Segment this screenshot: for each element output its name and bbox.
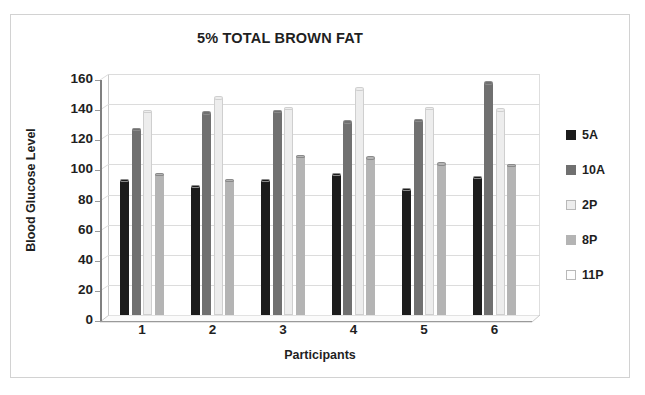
bar-top-cap [507, 164, 516, 168]
bar-10A-participant-2[interactable] [202, 113, 211, 315]
bar-8P-participant-4[interactable] [366, 158, 375, 315]
x-axis-label-4: 4 [334, 322, 374, 337]
bar-group-participant-4 [332, 80, 396, 321]
bar-10A-participant-1[interactable] [132, 130, 141, 315]
bar-top-cap [261, 179, 270, 183]
bar-top-cap [132, 128, 141, 132]
bar-face [296, 157, 305, 315]
bar-top-cap [296, 155, 305, 159]
bar-8P-participant-6[interactable] [507, 166, 516, 315]
y-axis-label-140: 140 [55, 101, 93, 116]
bar-face [496, 110, 505, 315]
bar-face [366, 158, 375, 315]
bar-face [343, 122, 352, 315]
x-axis-label-1: 1 [122, 322, 162, 337]
bar-8P-participant-1[interactable] [155, 175, 164, 315]
bar-face [414, 121, 423, 315]
bar-face [402, 190, 411, 315]
legend-swatch-icon [566, 235, 576, 245]
x-axis-label-5: 5 [404, 322, 444, 337]
bar-2P-participant-1[interactable] [143, 112, 152, 315]
bar-top-cap [366, 156, 375, 160]
bar-top-cap [343, 120, 352, 124]
bar-5A-participant-2[interactable] [191, 187, 200, 315]
legend-item-2P[interactable]: 2P [566, 198, 636, 212]
bar-10A-participant-5[interactable] [414, 121, 423, 315]
bar-face [473, 178, 482, 315]
bar-face [284, 109, 293, 315]
bar-face [425, 109, 434, 315]
bar-top-cap [425, 107, 434, 111]
bar-8P-participant-2[interactable] [225, 181, 234, 315]
bar-face [273, 112, 282, 315]
chart-legend: 5A10A2P8P11P [566, 128, 636, 303]
bar-5A-participant-5[interactable] [402, 190, 411, 315]
y-axis-label-60: 60 [55, 222, 93, 237]
bar-5A-participant-4[interactable] [332, 175, 341, 315]
legend-label: 8P [582, 233, 597, 247]
bar-2P-participant-2[interactable] [214, 98, 223, 315]
x-axis-title: Participants [100, 348, 540, 362]
bar-group-participant-3 [261, 80, 325, 321]
legend-label: 11P [582, 268, 604, 282]
bar-10A-participant-4[interactable] [343, 122, 352, 315]
legend-swatch-icon [566, 200, 576, 210]
bar-2P-participant-5[interactable] [425, 109, 434, 315]
y-axis-label-40: 40 [55, 252, 93, 267]
bar-face [261, 181, 270, 315]
bar-face [120, 181, 129, 315]
bar-8P-participant-5[interactable] [437, 164, 446, 315]
bar-5A-participant-1[interactable] [120, 181, 129, 315]
bar-group-participant-6 [473, 80, 537, 321]
legend-label: 5A [582, 128, 598, 142]
bar-2P-participant-6[interactable] [496, 110, 505, 315]
x-axis-label-6: 6 [475, 322, 515, 337]
x-axis-label-2: 2 [193, 322, 233, 337]
y-axis-label-100: 100 [55, 161, 93, 176]
y-axis-label-20: 20 [55, 282, 93, 297]
y-axis-label-120: 120 [55, 131, 93, 146]
y-axis-title: Blood Glucose Level [22, 110, 40, 270]
bar-10A-participant-6[interactable] [484, 83, 493, 315]
bar-series-layer [100, 74, 540, 321]
bar-top-cap [437, 162, 446, 166]
bar-face [143, 112, 152, 315]
bar-2P-participant-3[interactable] [284, 109, 293, 315]
chart-container: 5% TOTAL BROWN FAT Blood Glucose Level 0… [0, 0, 645, 395]
legend-swatch-icon [566, 130, 576, 140]
x-axis-label-3: 3 [263, 322, 303, 337]
bar-2P-participant-4[interactable] [355, 89, 364, 315]
bar-top-cap [143, 110, 152, 114]
bar-top-cap [214, 96, 223, 100]
bar-top-cap [155, 173, 164, 177]
y-axis-label-0: 0 [55, 312, 93, 327]
bar-top-cap [120, 179, 129, 183]
bar-top-cap [473, 176, 482, 180]
legend-item-10A[interactable]: 10A [566, 163, 636, 177]
bar-face [191, 187, 200, 315]
bar-top-cap [332, 173, 341, 177]
bar-10A-participant-3[interactable] [273, 112, 282, 315]
bar-group-participant-1 [120, 80, 184, 321]
legend-item-5A[interactable]: 5A [566, 128, 636, 142]
bar-top-cap [202, 111, 211, 115]
bar-face [202, 113, 211, 315]
bar-face [507, 166, 516, 315]
bar-top-cap [284, 107, 293, 111]
bar-face [225, 181, 234, 315]
legend-item-8P[interactable]: 8P [566, 233, 636, 247]
y-axis-label-80: 80 [55, 192, 93, 207]
bar-top-cap [496, 108, 505, 112]
y-axis-title-text: Blood Glucose Level [24, 128, 38, 252]
bar-top-cap [225, 179, 234, 183]
bar-8P-participant-3[interactable] [296, 157, 305, 315]
bar-5A-participant-6[interactable] [473, 178, 482, 315]
bar-5A-participant-3[interactable] [261, 181, 270, 315]
legend-item-11P[interactable]: 11P [566, 268, 636, 282]
y-axis-label-160: 160 [55, 71, 93, 86]
bar-face [132, 130, 141, 315]
legend-swatch-icon [566, 270, 576, 280]
bar-top-cap [273, 110, 282, 114]
bar-top-cap [414, 119, 423, 123]
bar-face [332, 175, 341, 315]
